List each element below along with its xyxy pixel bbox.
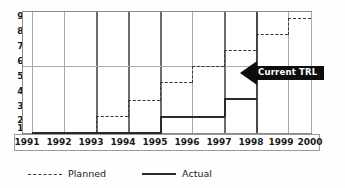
legend-label-planned: Planned (68, 169, 106, 179)
arrow-left-icon (240, 61, 257, 85)
planned-rise-1997 (224, 50, 225, 67)
dashed-line-icon (28, 174, 62, 175)
gridline-1991 (32, 12, 33, 133)
planned-seg-1994-1995 (128, 100, 160, 101)
planned-rise-1994 (128, 100, 129, 117)
gridline-1993 (96, 12, 98, 133)
actual-rise-1997 (224, 98, 226, 117)
gridline-1995 (160, 12, 162, 133)
actual-seg-1997-1998 (224, 98, 257, 100)
planned-seg-1997-1998 (224, 50, 256, 51)
x-tick-2000: 2000 (291, 137, 329, 148)
planned-seg-1999-2000 (288, 18, 311, 19)
trl-progress-chart: 9 8 7 6 5 4 3 2 1 (0, 0, 345, 188)
planned-seg-1998-1999 (256, 34, 288, 35)
planned-rise-1998 (256, 34, 257, 51)
planned-seg-1993-1994 (96, 116, 128, 117)
actual-seg-1995-1997 (160, 116, 225, 118)
planned-rise-1995 (160, 82, 161, 101)
legend-item-actual: Actual (142, 169, 212, 179)
gridline-1992 (64, 12, 65, 133)
planned-rise-1996 (192, 66, 193, 83)
actual-rise-1995 (160, 116, 162, 134)
chart-legend: Planned Actual (28, 166, 243, 182)
planned-rise-1993 (96, 116, 97, 133)
planned-seg-1996-1997 (192, 66, 224, 67)
legend-label-actual: Actual (182, 169, 212, 179)
solid-line-icon (142, 173, 176, 175)
current-trl-annotation: Current TRL (240, 60, 324, 85)
planned-seg-1995-1996 (160, 82, 192, 83)
planned-rise-1999 (288, 18, 289, 35)
legend-item-planned: Planned (28, 169, 106, 179)
current-trl-label: Current TRL (258, 68, 317, 77)
current-trl-banner: Current TRL (256, 66, 324, 80)
